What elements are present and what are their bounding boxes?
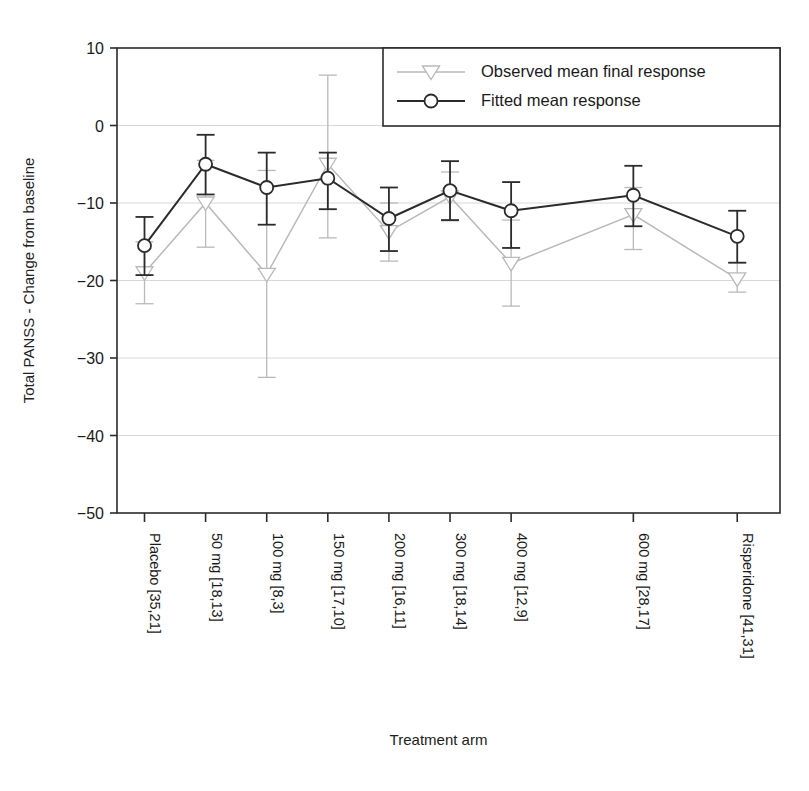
y-tick-label: −50 <box>77 505 104 522</box>
y-tick-label: −20 <box>77 273 104 290</box>
y-tick-label: 10 <box>86 40 104 57</box>
x-tick-label: Risperidone [41,31] <box>740 533 756 659</box>
y-axis: 100−10−20−30−40−50 <box>77 40 117 522</box>
x-tick-label: 400 mg [12,9] <box>514 533 530 622</box>
chart-figure: 100−10−20−30−40−50Placebo [35,21]50 mg [… <box>0 0 809 791</box>
data-point-circle <box>627 189 640 202</box>
x-tick-label: 200 mg [16,11] <box>392 533 408 629</box>
data-point-triangle <box>258 268 275 282</box>
legend-item-fitted-mean-response[interactable]: Fitted mean response <box>397 91 641 109</box>
legend-label: Fitted mean response <box>481 91 641 109</box>
series-fitted-mean-response <box>135 135 746 275</box>
y-tick-label: −30 <box>77 350 104 367</box>
x-axis-title: Treatment arm <box>390 731 488 748</box>
series-line <box>144 164 737 245</box>
y-tick-label: 0 <box>95 118 104 135</box>
x-tick-label: 600 mg [28,17] <box>636 533 652 630</box>
legend-circle-icon <box>425 95 438 108</box>
y-tick-label: −10 <box>77 195 104 212</box>
data-point-circle <box>505 204 518 217</box>
y-axis-title: Total PANSS - Change from baseline <box>20 158 37 404</box>
x-tick-label: 150 mg [17,10] <box>331 533 347 630</box>
legend-label: Observed mean final response <box>481 62 706 80</box>
x-tick-label: 50 mg [18,13] <box>209 533 225 622</box>
legend-box <box>383 48 780 126</box>
x-axis: Placebo [35,21]50 mg [18,13]100 mg [8,3]… <box>144 513 756 659</box>
data-point-circle <box>321 172 334 185</box>
chart-legend: Observed mean final responseFitted mean … <box>383 48 780 126</box>
data-point-triangle <box>729 273 746 287</box>
data-point-triangle <box>503 257 520 271</box>
data-point-circle <box>444 184 457 197</box>
data-point-circle <box>260 181 273 194</box>
series-line <box>144 164 737 279</box>
x-tick-label: 300 mg [18,14] <box>453 533 469 630</box>
data-point-circle <box>382 212 395 225</box>
data-point-triangle <box>197 197 214 211</box>
panss-change-from-baseline-chart: 100−10−20−30−40−50Placebo [35,21]50 mg [… <box>0 0 809 791</box>
data-point-circle <box>138 239 151 252</box>
x-tick-label: 100 mg [8,3] <box>270 533 286 614</box>
data-point-circle <box>199 158 212 171</box>
y-tick-label: −40 <box>77 428 104 445</box>
data-point-circle <box>731 230 744 243</box>
x-tick-label: Placebo [35,21] <box>147 533 163 634</box>
